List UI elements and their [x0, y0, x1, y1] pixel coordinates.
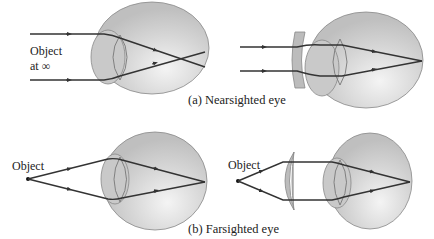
cornea [101, 154, 129, 204]
caption-farsighted: (b) Farsighted eye [188, 222, 279, 236]
nearsighted-uncorrected-eye: Object at ∞ [30, 2, 209, 94]
object-label-right: Object [228, 158, 261, 172]
farsighted-uncorrected-eye: Object [12, 132, 207, 230]
caption-nearsighted: (a) Nearsighted eye [188, 93, 286, 107]
object-at-infinity-label-line1: Object [30, 44, 63, 58]
farsighted-corrected-eye: Object [228, 133, 412, 229]
diverging-lens [292, 32, 305, 88]
object-label-left: Object [12, 159, 45, 173]
converging-lens [285, 152, 294, 210]
object-at-infinity-label-line2: at ∞ [30, 59, 50, 73]
eye-correction-diagram: Object at ∞ (a) Nearsighted eye Object [0, 0, 434, 239]
